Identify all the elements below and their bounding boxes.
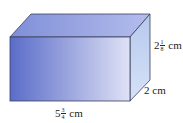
height-unit: cm [168, 39, 181, 51]
front-face [10, 37, 130, 101]
height-denominator: 8 [161, 46, 164, 52]
depth-label: 2 cm [144, 85, 166, 96]
height-numerator: 1 [160, 39, 165, 46]
prism-diagram [0, 0, 183, 123]
height-fraction: 18 [160, 39, 165, 52]
length-fraction: 34 [61, 107, 66, 120]
length-denominator: 4 [62, 114, 65, 120]
top-face [10, 14, 150, 37]
length-numerator: 3 [61, 107, 66, 114]
length-unit: cm [69, 107, 82, 119]
height-label: 218 cm [154, 40, 182, 53]
length-label: 534 cm [55, 108, 83, 121]
